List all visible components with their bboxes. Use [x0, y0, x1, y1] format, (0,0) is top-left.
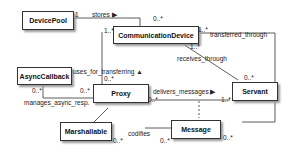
label-receives-through: receives_through: [177, 55, 227, 62]
mult: 0..*: [148, 96, 158, 103]
class-async-callback: AsyncCallback: [17, 67, 72, 85]
label-stores: stores ▶: [92, 11, 117, 19]
mult: 0..*: [244, 74, 254, 81]
mult: 1..*: [221, 96, 231, 103]
mult: 0..*: [80, 87, 90, 94]
label-codifies: codifies: [128, 130, 150, 137]
class-marshallable: Marshallable: [60, 122, 112, 141]
mult: 0..*: [223, 134, 233, 141]
label-delivers-messages: delivers_messages ▶: [153, 88, 215, 96]
uml-class-diagram: DevicePool CommunicationDevice AsyncCall…: [0, 0, 291, 156]
mult: 1..*: [190, 43, 200, 50]
mult: 0..*: [160, 137, 170, 144]
label-transferred-through: transferred_through: [210, 31, 267, 38]
mult: 0..*: [113, 137, 123, 144]
mult: 1..*: [198, 26, 208, 33]
mult: 0..*: [32, 87, 42, 94]
label-manages-async-resp: manages_async_resp.: [24, 99, 89, 106]
class-message: Message: [171, 120, 221, 139]
label-uses-for-transferring: uses_for_transferring ▲: [73, 68, 143, 75]
mult: 1: [75, 11, 79, 18]
class-communication-device: CommunicationDevice: [113, 26, 199, 44]
mult: 0..*: [153, 15, 163, 22]
class-servant: Servant: [232, 82, 278, 101]
class-proxy: Proxy: [93, 84, 149, 103]
mult: 1..*: [104, 27, 114, 34]
mult: 0..*: [104, 75, 114, 82]
class-device-pool: DevicePool: [22, 11, 74, 30]
